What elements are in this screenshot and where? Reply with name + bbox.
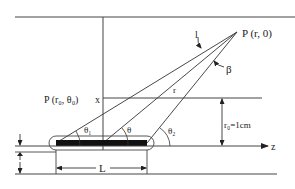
label-x-axis: x	[95, 94, 100, 105]
label-r0: r₀=1cm	[224, 120, 251, 130]
label-l: l	[195, 29, 198, 40]
beta-pointer-arrow	[214, 61, 224, 67]
label-theta2: θ₂	[168, 126, 175, 136]
label-theta: θ	[127, 125, 131, 135]
label-r: r	[173, 85, 176, 95]
label-beta: β	[226, 63, 232, 75]
label-length: L	[99, 162, 106, 174]
l-pointer-arrow	[198, 37, 201, 48]
label-point-p: P (r, 0)	[242, 27, 272, 40]
label-theta1: θ₁	[84, 125, 91, 135]
label-point-p0: P (r₀, θ₀)	[44, 94, 78, 106]
diagram-canvas: P (r, 0) l β r P (r₀, θ₀) x r₀=1cm z θ₁ …	[0, 0, 295, 189]
label-z-axis: z	[271, 141, 276, 152]
line-source-bar	[56, 140, 147, 146]
dim-arrowhead-up	[17, 152, 23, 156]
